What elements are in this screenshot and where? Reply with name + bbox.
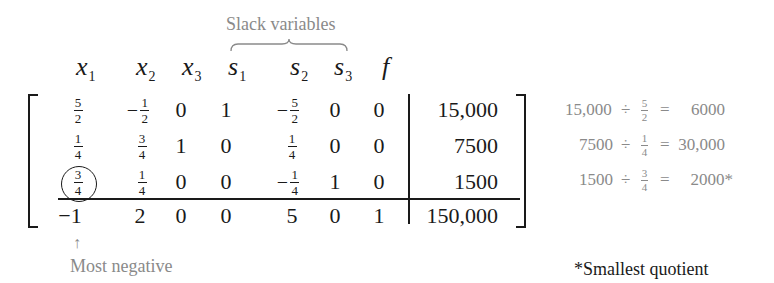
header-f: f bbox=[382, 52, 389, 82]
cell: 1 bbox=[161, 133, 201, 159]
cell: 0 bbox=[161, 203, 201, 229]
cell: 34 bbox=[122, 132, 162, 161]
cell: 0 bbox=[206, 203, 246, 229]
rhs-value: 150,000 bbox=[388, 203, 498, 229]
cell: 0 bbox=[161, 169, 201, 195]
header-s3: s3 bbox=[334, 52, 352, 85]
cell: 0 bbox=[315, 133, 355, 159]
cell: 1 bbox=[206, 97, 246, 123]
cell: 14 bbox=[58, 132, 98, 161]
smallest-quotient-note: *Smallest quotient bbox=[574, 259, 709, 280]
cell: 0 bbox=[206, 133, 246, 159]
cell: 14 bbox=[272, 132, 312, 161]
cell: 0 bbox=[206, 169, 246, 195]
cell: 1 bbox=[315, 169, 355, 195]
header-x1: x1 bbox=[76, 52, 96, 85]
cell: 0 bbox=[161, 97, 201, 123]
cell: −52 bbox=[268, 96, 308, 125]
up-arrow-icon: ↑ bbox=[73, 234, 81, 252]
header-x2: x2 bbox=[136, 52, 156, 85]
right-bracket bbox=[516, 94, 526, 228]
slack-brace-icon bbox=[230, 38, 348, 52]
rhs-value: 15,000 bbox=[388, 97, 498, 123]
cell: 52 bbox=[58, 96, 98, 125]
cell: 0 bbox=[315, 97, 355, 123]
slack-variables-label: Slack variables bbox=[226, 14, 335, 35]
rhs-value: 1500 bbox=[388, 169, 498, 195]
left-bracket bbox=[28, 94, 38, 228]
cell: 5 bbox=[272, 203, 312, 229]
cell: 2 bbox=[120, 203, 160, 229]
most-negative-label: Most negative bbox=[70, 256, 172, 277]
cell: −12 bbox=[118, 96, 158, 125]
objective-divider bbox=[58, 198, 520, 200]
header-s2: s2 bbox=[290, 52, 308, 85]
rhs-value: 7500 bbox=[388, 133, 498, 159]
header-s1: s1 bbox=[228, 52, 246, 85]
cell: −14 bbox=[268, 168, 308, 197]
cell: −1 bbox=[50, 203, 90, 229]
cell: 0 bbox=[315, 203, 355, 229]
header-x3: x3 bbox=[182, 52, 202, 85]
cell: 14 bbox=[122, 168, 162, 197]
pivot-cell: 34 bbox=[58, 168, 98, 197]
